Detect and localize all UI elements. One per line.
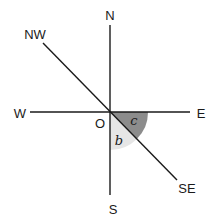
angle-c-label: c [130,113,138,128]
angle-b-label: b [115,133,123,148]
east-label: E [197,106,206,121]
northwest-label: NW [24,27,46,42]
origin-label: O [95,116,105,131]
southeast-label: SE [178,181,196,196]
south-label: S [109,202,118,217]
compass-svg: N S W E NW SE O c b [0,0,214,223]
compass-diagram: N S W E NW SE O c b [0,0,214,223]
north-label: N [105,8,114,23]
west-label: W [14,106,27,121]
